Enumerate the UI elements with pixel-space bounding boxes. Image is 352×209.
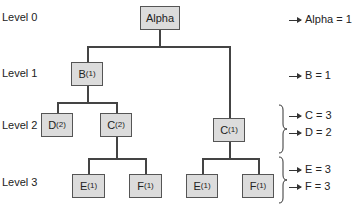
connector (202, 158, 204, 174)
connector (88, 158, 146, 160)
node-f-left: F(1) (129, 174, 162, 198)
result-c: C = 3 (289, 109, 332, 121)
level-3-label: Level 3 (2, 176, 37, 188)
level-2-label: Level 2 (2, 119, 37, 131)
arrow-right-icon (289, 76, 301, 77)
connector (229, 142, 231, 158)
arrow-right-icon (289, 133, 301, 134)
connector (57, 102, 117, 104)
connector (87, 46, 230, 48)
level-0-label: Level 0 (2, 11, 37, 23)
node-b: B(1) (71, 62, 103, 86)
brace-icon (278, 156, 288, 204)
arrow-right-icon (289, 116, 301, 117)
node-f-right: F(1) (242, 174, 274, 198)
connector (87, 46, 89, 62)
connector (116, 137, 118, 158)
arrow-right-icon (289, 170, 301, 171)
result-alpha: Alpha = 1 (289, 13, 352, 25)
node-alpha: Alpha (140, 6, 180, 30)
level-1-label: Level 1 (2, 67, 37, 79)
result-d: D = 2 (289, 126, 332, 138)
connector (87, 86, 89, 102)
connector (258, 158, 260, 174)
connector (88, 158, 90, 174)
connector (229, 46, 231, 118)
brace-icon (278, 104, 288, 154)
node-d: D(2) (41, 113, 73, 137)
arrow-right-icon (289, 187, 301, 188)
connector (145, 158, 147, 174)
node-e-right: E(1) (186, 174, 218, 198)
node-e-left: E(1) (72, 174, 105, 198)
result-b: B = 1 (289, 69, 331, 81)
result-e: E = 3 (289, 163, 331, 175)
node-c-left: C(2) (100, 113, 132, 137)
connector (116, 102, 118, 113)
arrow-right-icon (289, 20, 301, 21)
connector (159, 30, 161, 46)
connector (202, 158, 259, 160)
node-c-right: C(1) (213, 118, 245, 142)
connector (57, 102, 59, 113)
result-f: F = 3 (289, 180, 330, 192)
